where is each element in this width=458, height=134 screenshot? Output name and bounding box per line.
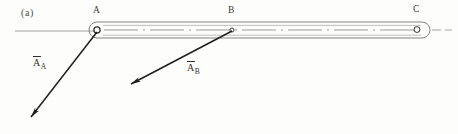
vector-label-a-at-A-base: A <box>33 57 40 68</box>
vector-label-a-at-B-subscript: B <box>194 67 200 76</box>
node-label-A: A <box>93 6 100 16</box>
node-label-B: B <box>228 6 235 16</box>
joint-C-pin <box>414 27 420 33</box>
vector-label-a-at-B-base: A <box>187 62 194 73</box>
panel-label: (a) <box>21 8 34 18</box>
vector-label-a-at-A: AA <box>33 57 46 70</box>
vector-label-a-at-B: AB <box>187 62 200 75</box>
vector-label-a-at-A-subscript: A <box>40 62 46 71</box>
node-label-C: C <box>413 5 420 15</box>
figure-drawing-canvas <box>0 0 458 134</box>
figure-panel-a: (a) A B C AA AB <box>0 0 458 134</box>
vector-a-at-B-shaft <box>131 31 232 84</box>
vector-a-at-A-shaft <box>31 32 97 117</box>
